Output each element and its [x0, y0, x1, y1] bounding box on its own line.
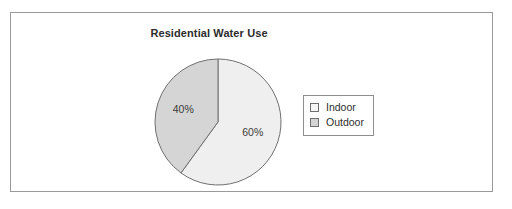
- legend-label-outdoor: Outdoor: [326, 115, 364, 130]
- pie-slice-label-indoor: 60%: [242, 126, 263, 138]
- pie-slice-label-outdoor: 40%: [173, 103, 194, 115]
- chart-title: Residential Water Use: [11, 27, 407, 39]
- legend-label-indoor: Indoor: [326, 100, 356, 115]
- pie-chart: 60% 40%: [145, 49, 291, 195]
- legend-swatch-indoor-icon: [310, 103, 319, 112]
- legend-swatch-outdoor-icon: [310, 118, 319, 127]
- legend-item-outdoor[interactable]: Outdoor: [310, 115, 364, 130]
- chart-frame: Residential Water Use 60% 40% Indoor Out…: [10, 12, 493, 192]
- chart-legend: Indoor Outdoor: [303, 95, 374, 136]
- pie-svg: 60% 40%: [145, 49, 291, 195]
- legend-item-indoor[interactable]: Indoor: [310, 100, 364, 115]
- figure-root: Residential Water Use 60% 40% Indoor Out…: [0, 0, 512, 209]
